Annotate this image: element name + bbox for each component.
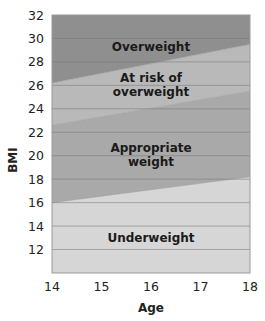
y-tick-label: 32: [28, 8, 44, 23]
y-tick-label: 26: [28, 78, 44, 93]
x-tick-label: 18: [242, 279, 258, 294]
y-tick-label: 16: [28, 195, 44, 210]
region-label: overweight: [113, 85, 190, 99]
x-tick-label: 15: [94, 279, 110, 294]
y-tick-label: 22: [28, 125, 44, 140]
x-axis-ticks: 1415161718: [44, 279, 258, 294]
y-tick-label: 28: [28, 54, 44, 69]
region-label: Overweight: [112, 40, 191, 54]
x-tick-label: 16: [143, 279, 159, 294]
y-axis-title: BMI: [6, 147, 20, 173]
y-tick-label: 12: [28, 242, 44, 257]
region-label: Underweight: [107, 231, 194, 245]
x-tick-label: 14: [44, 279, 60, 294]
bmi-chart: 1214161820222426283032 1415161718 BMI Ag…: [0, 0, 265, 321]
region-label: At risk of: [120, 71, 183, 85]
region-label: Appropriate: [110, 141, 191, 155]
y-tick-label: 24: [28, 101, 44, 116]
y-tick-label: 14: [28, 219, 44, 234]
y-axis-ticks: 1214161820222426283032: [28, 8, 44, 258]
x-axis-title: Age: [138, 301, 164, 315]
y-tick-label: 20: [28, 148, 44, 163]
y-tick-label: 30: [28, 31, 44, 46]
region-label: weight: [128, 155, 174, 169]
y-tick-label: 18: [28, 172, 44, 187]
x-tick-label: 17: [193, 279, 209, 294]
